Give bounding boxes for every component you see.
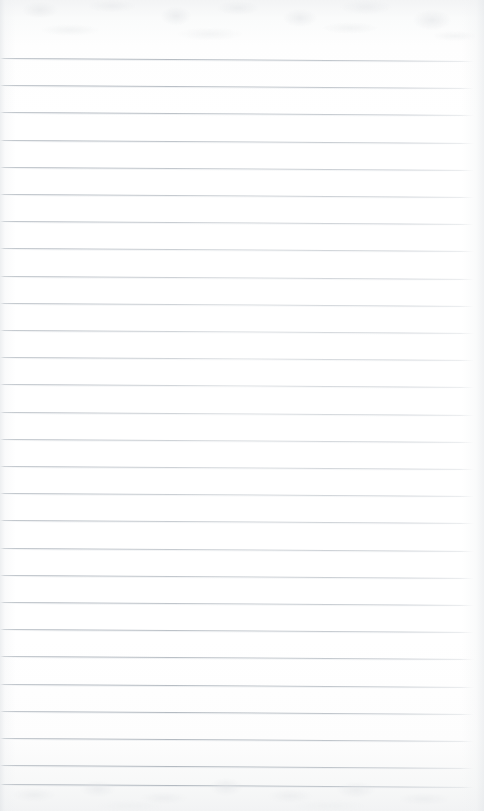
ruled-line bbox=[0, 58, 474, 62]
ruled-line bbox=[0, 656, 474, 660]
ruled-line bbox=[0, 221, 474, 225]
ruled-line bbox=[0, 85, 474, 89]
ruled-line bbox=[0, 684, 474, 688]
ruled-line bbox=[0, 357, 474, 361]
ruled-line bbox=[0, 167, 474, 171]
scanned-page bbox=[0, 0, 484, 811]
ruled-line bbox=[0, 738, 474, 742]
paper-texture-bottom-margin bbox=[0, 765, 484, 811]
ruled-line bbox=[0, 112, 474, 116]
ruled-line bbox=[0, 248, 474, 252]
ruled-line bbox=[0, 575, 474, 579]
ruled-line bbox=[0, 548, 474, 552]
ruled-line bbox=[0, 629, 474, 633]
ruled-line bbox=[0, 466, 474, 470]
ruled-line bbox=[0, 711, 474, 715]
ruled-line bbox=[0, 276, 474, 280]
ruled-line bbox=[0, 602, 474, 606]
ruled-line bbox=[0, 330, 474, 334]
ruled-line bbox=[0, 439, 474, 443]
ruled-line bbox=[0, 384, 474, 388]
ruled-line bbox=[0, 140, 474, 144]
ruled-line bbox=[0, 194, 474, 198]
ruled-line bbox=[0, 520, 474, 524]
ruled-line bbox=[0, 412, 474, 416]
ruled-line bbox=[0, 303, 474, 307]
ruled-lines-layer bbox=[0, 0, 484, 811]
ruled-line bbox=[0, 493, 474, 497]
